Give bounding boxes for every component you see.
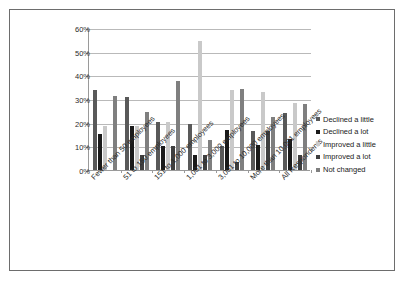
legend-item[interactable]: Improved a little	[316, 138, 402, 151]
legend-item[interactable]: Declined a lot	[316, 126, 402, 139]
legend-label: Not changed	[323, 166, 366, 174]
y-axis-tick-label: 30%	[56, 97, 90, 105]
y-axis-tick-label: 10%	[56, 144, 90, 152]
bar[interactable]	[93, 90, 97, 170]
legend-label: Improved a lot	[323, 153, 371, 161]
legend-swatch-icon	[316, 142, 320, 146]
x-axis-tick-mark	[184, 170, 185, 173]
bar[interactable]	[198, 41, 202, 170]
x-axis-tick-mark	[121, 170, 122, 173]
y-axis-tick-label: 0%	[56, 168, 90, 176]
y-axis-tick-label: 50%	[56, 49, 90, 57]
legend-label: Declined a little	[323, 116, 374, 124]
legend-swatch-icon	[316, 117, 320, 121]
x-axis-tick-mark	[248, 170, 249, 173]
bar[interactable]	[125, 97, 129, 170]
chart-frame: 0%10%20%30%40%50%60% Fewer than 50 emplo…	[9, 9, 395, 271]
x-axis-tick-mark	[216, 170, 217, 173]
legend-item[interactable]: Declined a little	[316, 113, 402, 126]
legend-item[interactable]: Improved a lot	[316, 151, 402, 164]
legend-item[interactable]: Not changed	[316, 163, 402, 176]
chart-legend: Declined a littleDeclined a lotImproved …	[316, 113, 402, 176]
bar-group	[93, 28, 117, 170]
y-axis-tick-label: 20%	[56, 120, 90, 128]
legend-swatch-icon	[316, 155, 320, 159]
y-axis-tick-label: 60%	[56, 26, 90, 34]
legend-label: Declined a lot	[323, 128, 368, 136]
legend-swatch-icon	[316, 168, 320, 172]
y-axis-tick-label: 40%	[56, 73, 90, 81]
legend-label: Improved a little	[323, 141, 376, 149]
x-axis-tick-mark	[311, 170, 312, 173]
legend-swatch-icon	[316, 130, 320, 134]
